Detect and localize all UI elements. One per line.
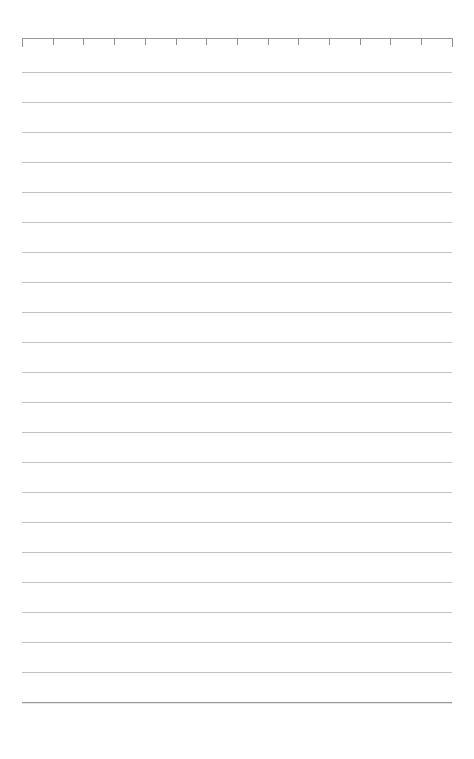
writing-area[interactable] [22,46,452,716]
ruled-paper-page [0,0,474,759]
